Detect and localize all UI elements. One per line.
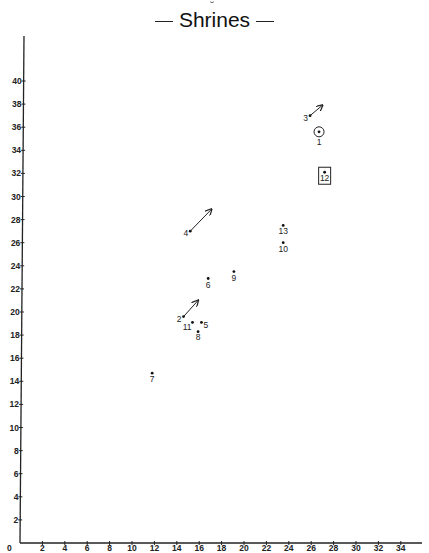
y-tick-label: 40 [12,76,22,86]
x-tick-label: 28 [329,543,339,553]
direction-arrow [310,105,322,115]
data-point-6: 6 [206,277,211,289]
data-point-11: 11 [183,321,194,332]
x-tick-label: 16 [194,543,204,553]
x-tick-label: 24 [284,543,294,553]
data-point-9: 9 [232,270,237,282]
point-dot [318,130,321,133]
point-label: 2 [177,314,182,324]
y-tick-label: 32 [11,168,21,178]
x-tick-label: 4 [62,543,67,553]
point-label: 6 [206,280,211,290]
x-tick-label: 12 [150,543,160,553]
point-label: 7 [150,374,155,384]
y-tick-label: 6 [14,469,19,479]
x-tick-label: 30 [351,543,361,553]
x-tick-label: 20 [239,543,249,553]
point-label: 13 [278,226,288,236]
point-label: 3 [303,113,308,123]
data-point-4: 4 [184,209,212,238]
y-tick-label: 20 [10,307,20,317]
x-tick-label: 8 [107,543,112,553]
scatter-plot: 0246810121416182022242628303234246810121… [0,0,429,553]
y-tick-label: 30 [11,192,21,202]
y-tick-label: 34 [12,145,22,155]
y-tick-label: 16 [10,353,20,363]
point-dot [200,321,203,324]
point-label: 8 [196,332,201,342]
data-point-12: 12 [319,167,331,184]
y-tick-label: 12 [10,399,20,409]
y-tick-label: 14 [10,376,20,386]
y-axis-line [20,36,24,543]
y-tick-label: 28 [11,215,21,225]
data-point-10: 10 [278,241,288,253]
y-tick-label: 18 [10,330,20,340]
y-tick-label: 2 [13,515,18,525]
y-tick-label: 24 [11,261,21,271]
data-point-1: 1 [314,127,324,147]
point-label: 10 [278,244,288,254]
x-tick-label: 14 [172,543,182,553]
y-tick-label: 22 [11,284,21,294]
point-label: 5 [203,320,208,330]
point-dot [191,321,194,324]
x-tick-label: 26 [306,543,316,553]
point-label: 9 [232,273,237,283]
x-tick-label: 2 [40,543,45,553]
point-label: 12 [320,173,330,183]
data-point-3: 3 [303,105,322,122]
x-tick-label: 0 [7,543,12,553]
y-tick-label: 8 [14,446,19,456]
y-tick-label: 4 [14,492,19,502]
y-tick-label: 36 [12,122,22,132]
data-point-2: 2 [177,300,198,323]
data-point-7: 7 [150,372,155,384]
data-point-5: 5 [200,320,208,330]
x-tick-label: 6 [85,543,90,553]
data-points: 12345678910111213 [150,105,331,384]
point-label: 4 [184,228,189,238]
x-tick-label: 18 [217,543,227,553]
data-point-13: 13 [278,224,288,236]
y-tick-label: 38 [12,99,22,109]
y-tick-label: 10 [9,423,19,433]
x-tick-label: 32 [374,543,384,553]
data-point-8: 8 [196,330,201,341]
point-label: 1 [317,137,322,147]
y-tick-label: 26 [11,238,21,248]
x-tick-label: 10 [127,543,137,553]
x-tick-label: 34 [396,543,406,553]
direction-arrow [190,209,211,231]
direction-arrow [184,300,199,316]
axes: 0246810121416182022242628303234246810121… [7,36,422,553]
x-tick-label: 22 [262,543,272,553]
point-label: 11 [183,322,192,332]
